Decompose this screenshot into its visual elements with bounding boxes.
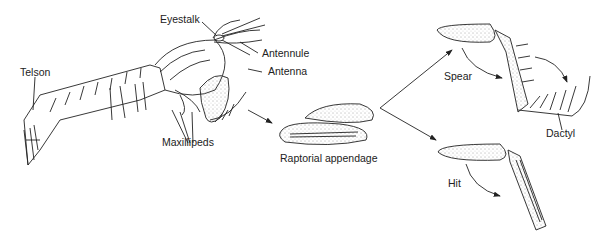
label-eyestalk: Eyestalk — [160, 14, 200, 25]
mantis-shrimp-diagram: Eyestalk Antennule Antenna Telson Maxill… — [0, 0, 605, 238]
raptorial-drawing — [280, 104, 374, 145]
label-spear: Spear — [444, 71, 472, 82]
label-telson: Telson — [20, 67, 50, 78]
diagram-drawing — [0, 0, 605, 238]
shrimp-body — [24, 18, 265, 165]
label-raptorial-appendage: Raptorial appendage — [280, 153, 378, 164]
label-hit: Hit — [448, 178, 461, 189]
label-antennule: Antennule — [262, 48, 309, 59]
label-dactyl: Dactyl — [546, 128, 575, 139]
label-antenna: Antenna — [268, 66, 307, 77]
label-maxillipeds: Maxillipeds — [162, 137, 214, 148]
